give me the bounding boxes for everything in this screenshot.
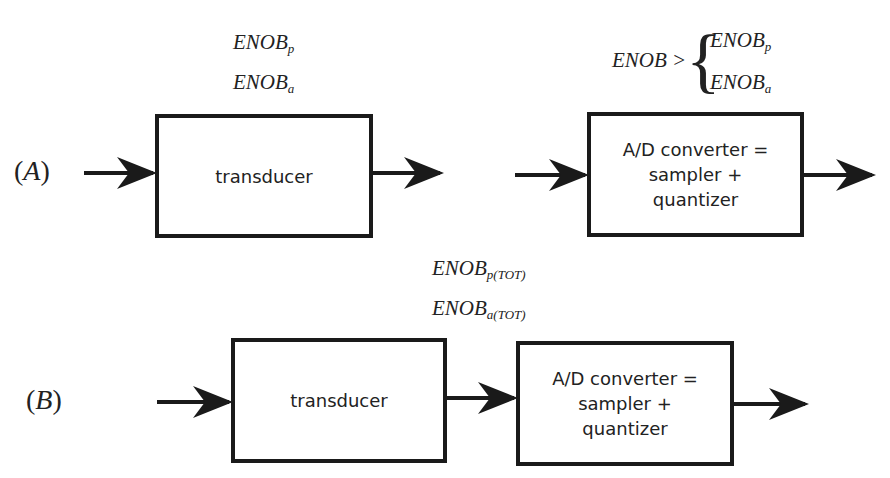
row-a-label: (A) (14, 155, 50, 187)
condition-lhs: ENOB > (612, 48, 686, 72)
spec-base: ENOB (233, 70, 288, 94)
row-b-label: (B) (26, 384, 62, 416)
transducer-label: transducer (290, 388, 387, 413)
spec-base: ENOB (233, 30, 288, 54)
adc-line3: quantizer (552, 416, 698, 441)
adc-line2: sampler + (552, 391, 698, 416)
row-b-letter: B (35, 384, 52, 415)
row-a-letter: A (23, 155, 40, 186)
spec-base: ENOB (710, 28, 765, 52)
transducer-block-b: transducer (231, 338, 447, 463)
spec-base: ENOB (710, 70, 765, 94)
adc-line3: quantizer (623, 187, 769, 212)
adc-condition-lhs: ENOB > (612, 48, 686, 73)
spec-sub: p(TOT) (487, 267, 526, 282)
adc-block-b: A/D converter = sampler + quantizer (516, 341, 734, 466)
spec-base: ENOB (432, 256, 487, 280)
adc-line2: sampler + (623, 162, 769, 187)
transducer-block-a: transducer (155, 114, 373, 238)
adc-line1: A/D converter = (552, 366, 698, 391)
spec-sub: a (765, 81, 772, 96)
adc-block-a: A/D converter = sampler + quantizer (587, 112, 804, 237)
adc-condition-case-p: ENOBp (710, 28, 771, 53)
transducer-spec-p: ENOBp (233, 30, 294, 55)
spec-base: ENOB (432, 296, 487, 320)
spec-sub: p (288, 41, 295, 56)
total-spec-p: ENOBp(TOT) (432, 256, 526, 281)
spec-sub: a (288, 81, 295, 96)
spec-sub: p (765, 39, 772, 54)
total-spec-a: ENOBa(TOT) (432, 296, 526, 321)
spec-sub: a(TOT) (487, 307, 526, 322)
adc-condition-case-a: ENOBa (710, 70, 771, 95)
transducer-spec-a: ENOBa (233, 70, 294, 95)
adc-line1: A/D converter = (623, 137, 769, 162)
transducer-label: transducer (215, 164, 312, 189)
